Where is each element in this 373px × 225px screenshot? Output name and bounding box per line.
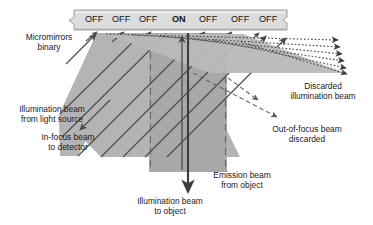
annotation-illumination-source: Illumination beam from light source (4, 104, 100, 125)
annotation-micromirrors: Micromirrors binary (6, 32, 92, 53)
annotation-in-focus-line2: to detector (25, 142, 111, 152)
mirror-cell-4-state[interactable]: ON (172, 14, 186, 24)
annotation-in-focus: In-focus beam to detector (25, 132, 111, 153)
mirror-cell-7-state[interactable]: OFF (259, 14, 277, 24)
annotation-discarded-illumination-line1: Discarded (275, 81, 371, 91)
annotation-discarded-illumination: Discarded illumination beam (275, 81, 371, 102)
annotation-out-of-focus-line2: discarded (249, 134, 365, 144)
mirror-cell-2-state[interactable]: OFF (112, 14, 130, 24)
annotation-illumination-object-line1: Illumination beam (118, 196, 222, 206)
mirror-cell-3-state[interactable]: OFF (139, 14, 157, 24)
annotation-emission-line1: Emission beam (196, 170, 288, 180)
annotation-in-focus-line1: In-focus beam (25, 132, 111, 142)
annotation-illumination-source-line2: from light source (4, 114, 100, 124)
diagram-canvas: OFF OFF OFF ON OFF OFF OFF Micromirrors … (0, 0, 373, 225)
mirror-cell-1-state[interactable]: OFF (85, 14, 103, 24)
annotation-micromirrors-line1: Micromirrors (6, 32, 92, 42)
annotation-illumination-object: Illumination beam to object (118, 196, 222, 217)
annotation-micromirrors-line2: binary (6, 42, 92, 52)
annotation-out-of-focus: Out-of-focus beam discarded (249, 124, 365, 145)
annotation-emission-line2: from object (196, 180, 288, 190)
annotation-illumination-source-line1: Illumination beam (4, 104, 100, 114)
mirror-cell-5-state[interactable]: OFF (199, 14, 217, 24)
annotation-illumination-object-line2: to object (118, 206, 222, 216)
annotation-discarded-illumination-line2: illumination beam (275, 91, 371, 101)
mirror-cell-6-state[interactable]: OFF (231, 14, 249, 24)
annotation-emission: Emission beam from object (196, 170, 288, 191)
annotation-out-of-focus-line1: Out-of-focus beam (249, 124, 365, 134)
